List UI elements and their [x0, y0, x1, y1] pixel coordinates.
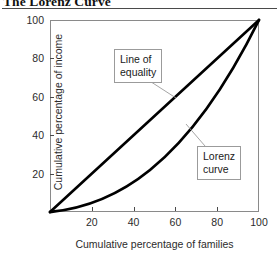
y-tick-label-60: 60 — [14, 91, 44, 103]
chart-plot-area: Line of equality Lorenz curve 100 80 60 … — [50, 20, 259, 212]
y-tick-label-40: 40 — [14, 129, 44, 141]
x-tick-label-100: 100 — [244, 216, 274, 228]
x-tick-label-80: 80 — [202, 216, 232, 228]
annotation-line-of-equality-text-2: equality — [120, 66, 156, 79]
annotation-lorenz-curve: Lorenz curve — [197, 146, 241, 180]
y-axis-title: Cumulative percentage of income — [52, 16, 64, 208]
annotation-lorenz-curve-text-2: curve — [203, 163, 235, 176]
title-divider — [2, 8, 277, 9]
y-tick-label-80: 80 — [14, 52, 44, 64]
x-tick-label-40: 40 — [119, 216, 149, 228]
annotation-line-of-equality-text-1: Line of — [120, 53, 156, 66]
y-tick-label-20: 20 — [14, 168, 44, 180]
y-tick-label-100: 100 — [14, 14, 44, 26]
x-tick-label-60: 60 — [160, 216, 190, 228]
x-tick-label-20: 20 — [77, 216, 107, 228]
annotation-line-of-equality: Line of equality — [114, 49, 162, 83]
annotation-lorenz-curve-text-1: Lorenz — [203, 150, 235, 163]
x-axis-title: Cumulative percentage of families — [50, 238, 259, 250]
